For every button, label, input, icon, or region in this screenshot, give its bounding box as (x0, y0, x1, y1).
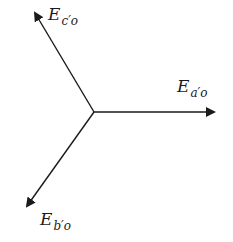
phasor-a-label: Ea′o (177, 78, 208, 95)
phasor-c-label: Ec′o (48, 6, 78, 23)
phasor-a-subscript: a′o (190, 86, 207, 100)
phasor-diagram: Ec′o Ea′o Eb′o (0, 0, 233, 242)
phasor-b-arrow (27, 112, 94, 206)
phasor-b-subscript: b′o (53, 219, 71, 233)
phasor-b-main: E (40, 209, 52, 229)
phasor-c-subscript: c′o (61, 14, 78, 28)
phasor-c-main: E (48, 4, 60, 24)
phasor-b-label: Eb′o (40, 211, 71, 228)
phasor-arrows (0, 0, 233, 242)
phasor-a-main: E (177, 76, 189, 96)
